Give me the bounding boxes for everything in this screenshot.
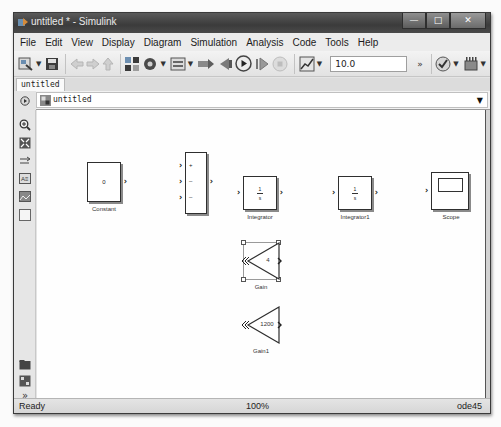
sum-sign-3: – <box>189 194 192 200</box>
input-port-icon[interactable]: › <box>179 194 182 202</box>
address-bar: untitled ▼ <box>14 91 490 110</box>
run-icon <box>235 55 252 72</box>
model-advisor-dropdown[interactable]: ▼ <box>453 60 458 68</box>
scope-block[interactable]: › <box>431 172 469 210</box>
gain1-label[interactable]: Gain1 <box>243 348 279 354</box>
fit-view-button[interactable] <box>18 136 32 149</box>
scope-screen-icon <box>438 178 463 192</box>
input-port-icon[interactable]: › <box>179 178 182 186</box>
browser-icon <box>19 360 31 370</box>
status-solver[interactable]: ode45 <box>457 401 482 411</box>
stop-button[interactable] <box>272 55 288 73</box>
menu-view[interactable]: View <box>71 37 93 48</box>
input-port-icon[interactable]: › <box>332 189 335 197</box>
save-button[interactable] <box>45 55 59 73</box>
menu-display[interactable]: Display <box>102 37 135 48</box>
new-model-button[interactable] <box>18 55 34 73</box>
library-browser-button[interactable] <box>124 55 140 73</box>
gain-label[interactable]: Gain <box>243 284 279 290</box>
annotation-button[interactable]: A≡ <box>18 172 32 185</box>
hide-browser-button[interactable] <box>14 91 36 110</box>
vertical-scrollbar[interactable] <box>485 110 490 400</box>
status-zoom[interactable]: 100% <box>246 401 269 411</box>
output-port-icon[interactable]: › <box>210 178 213 186</box>
menu-file[interactable]: File <box>20 37 36 48</box>
new-model-dropdown[interactable]: ▼ <box>36 60 41 68</box>
close-button[interactable]: ✕ <box>450 13 486 29</box>
path-dropdown-icon[interactable]: ▼ <box>477 96 483 105</box>
annotation-icon: A≡ <box>19 173 31 184</box>
explorer-bar-button[interactable] <box>18 374 32 387</box>
input-port-icon[interactable]: › <box>179 162 182 170</box>
status-state: Ready <box>19 401 45 411</box>
up-button[interactable] <box>102 55 114 73</box>
input-port-icon[interactable]: › <box>425 187 428 195</box>
forward-button[interactable] <box>86 55 100 73</box>
toolbar-separator <box>294 54 295 74</box>
output-port-icon[interactable]: › <box>280 189 283 197</box>
menu-code[interactable]: Code <box>292 37 316 48</box>
integrator1-label[interactable]: Integrator1 <box>333 214 377 220</box>
model-browser-button[interactable] <box>18 358 32 371</box>
fit-view-icon <box>19 137 31 149</box>
zoom-button[interactable] <box>18 118 32 131</box>
model-config-dropdown[interactable]: ▼ <box>160 60 165 68</box>
menu-tools[interactable]: Tools <box>325 37 348 48</box>
output-port-icon[interactable]: › <box>375 189 378 197</box>
constant-block[interactable]: 0 › <box>87 162 121 202</box>
toolbar-overflow-button[interactable]: » <box>417 59 423 69</box>
model-advisor-button[interactable] <box>435 55 451 73</box>
step-back-button[interactable] <box>217 55 233 73</box>
menu-diagram[interactable]: Diagram <box>144 37 182 48</box>
area-button[interactable] <box>18 208 32 221</box>
svg-text:A≡: A≡ <box>21 176 29 182</box>
simulink-window: untitled * - Simulink — □ ✕ File Edit Vi… <box>13 12 491 414</box>
run-button[interactable] <box>235 55 252 73</box>
integrator1-block[interactable]: 1s › › <box>338 176 372 210</box>
sum-block[interactable]: › + › – › – › <box>185 152 207 214</box>
hardware-board-icon <box>463 56 479 72</box>
image-button[interactable] <box>18 190 32 203</box>
menu-edit[interactable]: Edit <box>45 37 62 48</box>
arrow-route-button[interactable] <box>18 154 32 167</box>
zoom-icon <box>19 119 31 131</box>
model-icon <box>40 95 51 106</box>
step-forward-button[interactable] <box>254 55 270 73</box>
title-bar[interactable]: untitled * - Simulink — □ ✕ <box>14 13 490 33</box>
back-button[interactable] <box>70 55 84 73</box>
constant-value: 0 <box>88 179 120 185</box>
model-explorer-button[interactable] <box>170 55 186 73</box>
tab-untitled[interactable]: untitled <box>16 78 65 91</box>
integrator-block[interactable]: 1s › › <box>243 176 277 210</box>
hardware-button[interactable] <box>463 55 479 73</box>
library-browser-icon <box>124 56 140 72</box>
menu-simulation[interactable]: Simulation <box>190 37 237 48</box>
data-inspector-button[interactable] <box>299 55 315 73</box>
area-icon <box>19 209 31 221</box>
model-path-field[interactable]: untitled ▼ <box>36 92 488 108</box>
hardware-dropdown[interactable]: ▼ <box>481 60 486 68</box>
model-tab-strip: untitled <box>14 78 490 91</box>
input-port-icon[interactable]: › <box>237 189 240 197</box>
menu-help[interactable]: Help <box>358 37 379 48</box>
data-inspector-dropdown[interactable]: ▼ <box>317 60 322 68</box>
gain-value: 4 <box>261 257 275 263</box>
minimize-button[interactable]: — <box>402 13 426 29</box>
scope-label[interactable]: Scope <box>431 214 471 220</box>
menu-analysis[interactable]: Analysis <box>246 37 283 48</box>
step-forward-icon <box>254 56 270 72</box>
tool-palette: A≡ » <box>14 110 36 400</box>
maximize-button[interactable]: □ <box>426 13 450 29</box>
model-config-button[interactable] <box>142 55 158 73</box>
sum-sign-1: + <box>189 162 193 168</box>
integrator-label[interactable]: Integrator <box>238 214 282 220</box>
stop-time-input[interactable]: 10.0 <box>330 56 407 72</box>
build-button[interactable] <box>197 55 215 73</box>
constant-label[interactable]: Constant <box>87 206 121 212</box>
output-port-icon[interactable]: › <box>124 178 127 186</box>
image-icon <box>19 191 31 202</box>
integrator1-transfer-fn: 1s <box>339 186 371 201</box>
menu-bar: File Edit View Display Diagram Simulatio… <box>14 33 490 51</box>
model-canvas[interactable]: 0 › Constant › + › – › – › 1s › › Integr… <box>37 110 487 400</box>
model-explorer-dropdown[interactable]: ▼ <box>188 60 193 68</box>
